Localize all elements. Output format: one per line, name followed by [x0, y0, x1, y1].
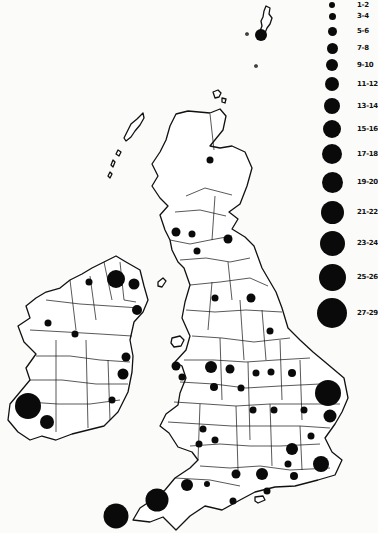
map-dot	[45, 320, 52, 327]
legend-dot-icon	[323, 120, 341, 138]
legend-label: 25-26	[357, 273, 378, 281]
map-dot	[172, 228, 181, 237]
legend-dot-icon	[321, 201, 344, 224]
map-dot	[324, 410, 337, 423]
map-dot	[207, 157, 214, 164]
legend-item: 27-29	[310, 306, 376, 320]
map-dot	[146, 489, 169, 512]
legend-label: 1-2	[357, 1, 369, 9]
legend-item: 15-16	[310, 122, 376, 136]
map-dot	[109, 397, 116, 404]
map-dot	[226, 365, 235, 374]
legend-label: 5-6	[357, 27, 369, 35]
map-dot	[285, 461, 292, 468]
map-dot	[301, 407, 308, 414]
legend-label: 19-20	[357, 178, 378, 186]
map-dot	[179, 374, 186, 381]
map-dot	[196, 441, 203, 448]
map-dot	[40, 415, 54, 429]
legend-dot-icon	[325, 77, 339, 91]
orkney-islands	[213, 90, 226, 103]
map-dot	[107, 270, 125, 288]
map-dot	[122, 353, 131, 362]
legend-label: 13-14	[357, 102, 378, 110]
legend-label: 15-16	[357, 125, 378, 133]
anglesey	[171, 336, 184, 347]
map-dot	[230, 498, 237, 505]
legend-item: 5-6	[310, 24, 376, 38]
legend-label: 3-4	[357, 12, 369, 20]
legend-item: 25-26	[310, 270, 376, 284]
map-dot	[212, 437, 219, 444]
map-dot	[268, 369, 275, 376]
map-dot	[210, 383, 218, 391]
map-dot	[194, 248, 201, 255]
legend-dot-icon	[319, 264, 346, 291]
map-dot	[172, 362, 181, 371]
legend-dot-icon	[322, 172, 343, 193]
map-dot	[132, 305, 142, 315]
map-dot	[15, 393, 41, 419]
isle-of-wight	[255, 496, 265, 503]
legend-label: 7-8	[357, 44, 369, 52]
map-dot	[232, 470, 241, 479]
legend-dot-icon	[317, 298, 347, 328]
legend-item: 9-10	[310, 58, 376, 72]
map-dot	[271, 407, 278, 414]
legend-item: 7-8	[310, 41, 376, 55]
map-dot	[286, 443, 298, 455]
legend-dot-icon	[324, 98, 340, 114]
map-dot	[224, 235, 233, 244]
legend-label: 17-18	[357, 150, 378, 158]
map-dot	[247, 294, 256, 303]
legend-item: 11-12	[310, 77, 376, 91]
legend-dot-icon	[322, 144, 342, 164]
legend-item: 23-24	[310, 236, 376, 250]
legend-dot-icon	[327, 43, 338, 54]
legend-item: 3-4	[310, 9, 376, 23]
map-dot	[118, 369, 129, 380]
legend-label: 23-24	[357, 239, 378, 247]
map-dot	[253, 370, 260, 377]
map-dot	[308, 433, 315, 440]
legend-dot-icon	[329, 2, 335, 8]
map-dot	[267, 328, 274, 335]
legend-dot-icon	[320, 231, 345, 256]
map-dot	[264, 488, 271, 495]
map-dot	[86, 279, 93, 286]
map-dot	[212, 295, 219, 302]
legend-label: 11-12	[357, 80, 378, 88]
map-dot	[204, 481, 210, 487]
legend-item: 13-14	[310, 99, 376, 113]
map-dot	[238, 385, 245, 392]
isle-of-man	[158, 278, 166, 287]
map-dot	[315, 380, 341, 406]
map-dot	[255, 29, 267, 41]
map-dot	[250, 407, 257, 414]
legend-label: 27-29	[357, 309, 378, 317]
map-dot	[256, 468, 268, 480]
map-dot	[181, 479, 193, 491]
map-dot	[200, 426, 207, 433]
map-dot	[288, 369, 296, 377]
legend-item: 17-18	[310, 147, 376, 161]
legend-label: 21-22	[357, 208, 378, 216]
map-dot	[205, 361, 217, 373]
map-dot	[189, 231, 196, 238]
legend-item: 19-20	[310, 175, 376, 189]
proportional-symbol-dots	[15, 29, 341, 529]
legend-dot-icon	[328, 27, 337, 36]
legend-label: 9-10	[357, 61, 373, 69]
map-dot	[313, 456, 329, 472]
legend-item: 21-22	[310, 205, 376, 219]
map-dot	[72, 331, 79, 338]
outer-hebrides	[108, 113, 144, 178]
legend-dot-icon	[326, 59, 338, 71]
map-dot	[290, 472, 298, 480]
legend-dot-icon	[329, 13, 336, 20]
map-dot	[129, 279, 140, 290]
map-dot	[104, 504, 129, 529]
